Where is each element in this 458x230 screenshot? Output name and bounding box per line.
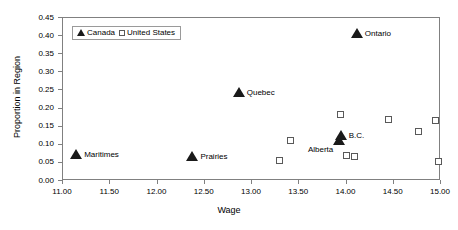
y-tick-mark xyxy=(58,108,62,109)
data-point-triangle xyxy=(186,151,198,161)
x-tick-mark xyxy=(346,180,347,184)
legend-label-canada: Canada xyxy=(87,28,115,37)
x-tick-mark xyxy=(204,180,205,184)
y-tick-mark xyxy=(58,71,62,72)
x-tick-label: 14.00 xyxy=(326,187,366,196)
y-tick-label: 0.15 xyxy=(20,121,54,130)
x-tick-label: 13.50 xyxy=(278,187,318,196)
data-point-square xyxy=(337,111,344,118)
data-point-square xyxy=(343,152,350,159)
data-point-label: B.C. xyxy=(349,131,365,140)
y-tick-label: 0.45 xyxy=(20,13,54,22)
x-tick-label: 11.50 xyxy=(89,187,129,196)
data-point-triangle xyxy=(70,149,82,159)
chart-legend: Canada United States xyxy=(72,26,181,40)
y-tick-mark xyxy=(58,89,62,90)
data-point-square xyxy=(432,117,439,124)
x-tick-mark xyxy=(440,180,441,184)
x-tick-mark xyxy=(393,180,394,184)
data-point-triangle xyxy=(335,130,347,140)
data-point-label: Quebec xyxy=(247,88,275,97)
data-point-square xyxy=(435,158,442,165)
x-tick-mark xyxy=(251,180,252,184)
data-point-label: Prairies xyxy=(200,152,227,161)
y-tick-label: 0.10 xyxy=(20,139,54,148)
y-tick-label: 0.20 xyxy=(20,103,54,112)
legend-label-united-states: United States xyxy=(127,28,175,37)
x-tick-label: 15.00 xyxy=(420,187,458,196)
data-point-triangle xyxy=(351,28,363,38)
legend-entry-canada: Canada xyxy=(77,28,115,37)
data-point-square xyxy=(385,116,392,123)
y-tick-mark xyxy=(58,35,62,36)
filled-triangle-icon xyxy=(77,29,85,36)
y-tick-label: 0.25 xyxy=(20,85,54,94)
scatter-chart: 0.000.050.100.150.200.250.300.350.400.45… xyxy=(0,0,458,230)
x-tick-label: 12.00 xyxy=(137,187,177,196)
x-tick-label: 13.00 xyxy=(231,187,271,196)
open-square-icon xyxy=(119,30,125,36)
y-tick-mark xyxy=(58,162,62,163)
x-tick-mark xyxy=(157,180,158,184)
y-axis-title: Proportion in Region xyxy=(12,37,22,157)
data-point-label: Ontario xyxy=(365,29,391,38)
x-tick-mark xyxy=(109,180,110,184)
x-axis-title: Wage xyxy=(0,205,458,215)
y-tick-label: 0.40 xyxy=(20,31,54,40)
y-tick-label: 0.30 xyxy=(20,67,54,76)
x-tick-label: 14.50 xyxy=(373,187,413,196)
x-tick-mark xyxy=(62,180,63,184)
y-tick-label: 0.00 xyxy=(20,176,54,185)
data-point-square xyxy=(351,153,358,160)
legend-entry-united-states: United States xyxy=(119,28,175,37)
y-tick-mark xyxy=(58,53,62,54)
y-tick-label: 0.35 xyxy=(20,49,54,58)
x-tick-label: 12.50 xyxy=(184,187,224,196)
x-tick-mark xyxy=(298,180,299,184)
x-tick-label: 11.00 xyxy=(42,187,82,196)
data-point-square xyxy=(287,137,294,144)
data-point-square xyxy=(276,157,283,164)
data-point-square xyxy=(415,128,422,135)
data-point-label: Alberta xyxy=(308,145,333,154)
y-tick-mark xyxy=(58,144,62,145)
data-point-triangle xyxy=(233,87,245,97)
y-tick-mark xyxy=(58,17,62,18)
y-tick-label: 0.05 xyxy=(20,157,54,166)
y-tick-mark xyxy=(58,126,62,127)
data-point-label: Maritimes xyxy=(84,150,119,159)
